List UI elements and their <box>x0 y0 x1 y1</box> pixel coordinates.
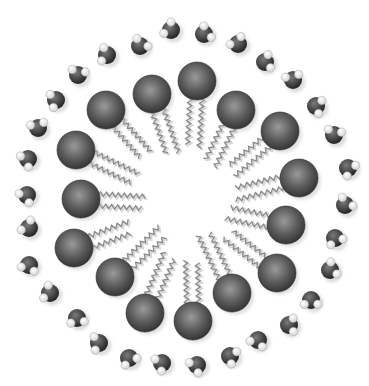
water-molecule <box>336 193 358 217</box>
hydrogen-atom <box>97 57 106 66</box>
hydrophilic-head <box>178 62 216 100</box>
hydrophilic-head <box>57 131 95 169</box>
water-molecule <box>300 291 324 313</box>
hydrogen-atom <box>289 314 298 323</box>
hydrogen-atom <box>100 43 109 52</box>
hydrophilic-head <box>213 274 251 312</box>
lipid-molecule <box>97 192 147 212</box>
water-molecule <box>90 332 112 355</box>
water-molecule <box>195 22 217 47</box>
hydrogen-atom <box>343 172 352 181</box>
lipid-molecule <box>225 205 274 231</box>
hydrogen-atom <box>324 125 333 134</box>
water-molecule <box>326 229 348 251</box>
water-molecule <box>321 258 343 283</box>
lipid-molecule <box>235 174 286 204</box>
hydrophilic-head <box>261 112 299 150</box>
tail-shadow <box>237 187 286 204</box>
hydrogen-atom <box>17 263 26 272</box>
water-molecule <box>151 354 175 376</box>
water-molecule <box>226 32 251 56</box>
water-molecule <box>160 18 184 43</box>
micelle-illustration <box>0 0 369 386</box>
hydrogen-atom <box>167 18 176 27</box>
water-molecule <box>280 314 302 338</box>
hydrogen-atom <box>81 68 90 77</box>
hydrogen-atom <box>246 337 255 346</box>
hydrogen-atom <box>160 29 169 38</box>
hydrogen-atom <box>226 40 235 49</box>
hydrogen-atom <box>266 64 275 73</box>
hydrogen-atom <box>200 22 209 31</box>
hydrogen-atom <box>90 332 99 341</box>
hydrogen-atom <box>327 258 336 267</box>
hydrogen-atom <box>314 300 323 309</box>
water-molecule <box>46 90 69 112</box>
hydrophobic-tail <box>123 225 159 264</box>
hydrogen-atom <box>207 33 216 42</box>
hydrophilic-head <box>133 75 171 113</box>
hydrogen-atom <box>300 300 309 309</box>
hydrogen-atom <box>25 198 34 207</box>
hydrogen-atom <box>351 161 360 170</box>
hydrogen-atom <box>349 202 358 211</box>
hydrogen-atom <box>44 281 53 290</box>
hydrophilic-head <box>174 302 212 340</box>
water-molecule <box>256 50 278 74</box>
hydrogen-atom <box>151 355 160 364</box>
hydrophilic-head <box>217 91 255 129</box>
hydrogen-atom <box>30 267 39 276</box>
hydrogen-atom <box>15 189 24 198</box>
hydrogen-atom <box>294 70 303 79</box>
water-molecule <box>67 309 90 331</box>
hydrogen-atom <box>133 34 142 43</box>
hydrogen-atom <box>16 152 25 161</box>
hydrophilic-head <box>87 91 125 129</box>
hydrogen-atom <box>133 354 142 363</box>
hydrogen-atom <box>157 367 166 376</box>
hydrogen-atom <box>46 90 55 99</box>
water-molecule <box>131 34 153 58</box>
hydrophilic-head <box>55 229 93 267</box>
hydrophilic-head <box>96 258 134 296</box>
hydrogen-atom <box>237 32 246 41</box>
water-molecule <box>281 70 305 92</box>
hydrophilic-head <box>280 159 318 197</box>
hydrogen-atom <box>68 65 77 74</box>
hydrophilic-head <box>126 294 164 332</box>
water-molecule <box>26 118 50 140</box>
water-molecule <box>185 356 210 378</box>
hydrogen-atom <box>26 121 35 130</box>
water-molecule <box>324 125 346 148</box>
hydrogen-atom <box>227 360 236 369</box>
tail-shadow <box>94 152 142 176</box>
hydrogen-atom <box>232 347 241 356</box>
hydrogen-atom <box>80 317 89 326</box>
hydrogen-atom <box>264 50 273 59</box>
water-molecule <box>16 150 40 172</box>
water-molecule <box>97 43 119 67</box>
hydrogen-atom <box>185 358 194 367</box>
hydrogen-atom <box>91 346 100 355</box>
water-molecule <box>120 349 142 371</box>
hydrogen-atom <box>144 42 153 51</box>
hydrogen-atom <box>26 216 35 225</box>
water-molecule <box>307 96 329 118</box>
hydrogen-atom <box>24 163 33 172</box>
water-molecule <box>15 186 40 208</box>
hydrogen-atom <box>258 342 267 351</box>
water-molecule <box>68 65 91 87</box>
water-molecule <box>221 347 243 369</box>
hydrogen-atom <box>314 109 323 118</box>
tail-shadow <box>225 238 263 269</box>
water-molecule <box>39 281 62 306</box>
hydrophilic-head <box>267 206 305 244</box>
hydrogen-atom <box>17 226 26 235</box>
hydrogen-atom <box>281 73 290 82</box>
lipid-molecule <box>185 97 205 150</box>
water-molecule <box>17 216 42 241</box>
water-molecule <box>339 159 361 181</box>
hydrogen-atom <box>121 361 130 370</box>
hydrogen-atom <box>339 235 348 244</box>
hydrogen-atom <box>338 193 347 202</box>
